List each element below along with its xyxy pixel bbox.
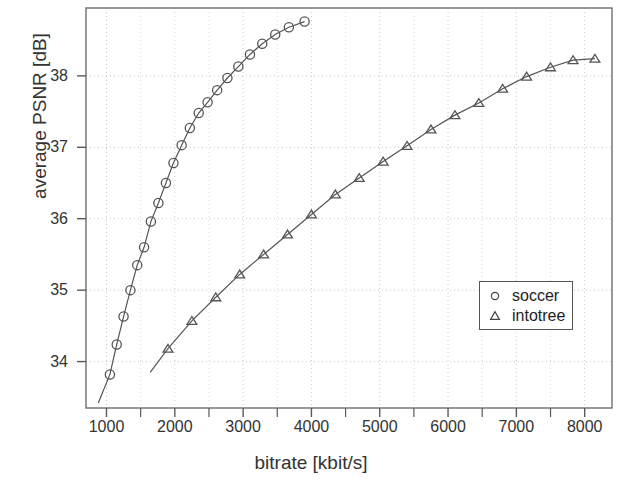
x-tick-label: 2000 xyxy=(157,418,193,436)
x-tick-label: 5000 xyxy=(362,418,398,436)
legend-label: soccer xyxy=(512,287,559,305)
circle-marker-icon xyxy=(486,287,504,305)
legend-entry: soccer xyxy=(486,286,572,306)
x-tick-label: 4000 xyxy=(294,418,330,436)
x-tick-label: 7000 xyxy=(499,418,535,436)
y-tick-label: 36 xyxy=(28,210,68,228)
y-tick-label: 34 xyxy=(28,353,68,371)
x-tick-label: 8000 xyxy=(567,418,603,436)
x-tick-label: 1000 xyxy=(89,418,125,436)
chart-figure: average PSNR [dB] bitrate [kbit/s] 10002… xyxy=(0,0,622,487)
y-tick-label: 38 xyxy=(28,67,68,85)
x-tick-label: 6000 xyxy=(430,418,466,436)
y-tick-label: 37 xyxy=(28,138,68,156)
legend-entry: intotree xyxy=(486,306,572,326)
x-tick-label: 3000 xyxy=(225,418,261,436)
y-tick-label: 35 xyxy=(28,281,68,299)
y-tick-labels: 3435363738 xyxy=(28,0,68,487)
x-tick-labels: 10002000300040005000600070008000 xyxy=(0,0,622,487)
legend-label: intotree xyxy=(512,307,565,325)
legend: soccerintotree xyxy=(479,281,573,330)
triangle-marker-icon xyxy=(486,307,504,325)
